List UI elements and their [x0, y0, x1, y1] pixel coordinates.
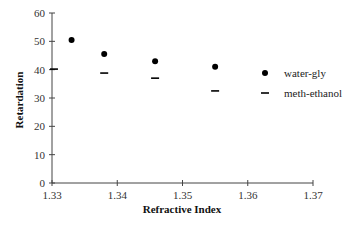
x-tick-label: 1.36 [238, 189, 258, 201]
x-axis-title: Refractive Index [143, 203, 222, 215]
y-axis-title: Retardation [13, 72, 25, 129]
legend: water-glymeth-ethanol [261, 67, 342, 99]
water-gly-point [101, 51, 107, 57]
scatter-chart: 0102030405060 1.331.341.351.361.37 water… [0, 0, 350, 225]
y-tick-label: 60 [34, 7, 46, 19]
y-tick-label: 20 [34, 120, 46, 132]
y-tick-label: 40 [34, 64, 46, 76]
y-tick-label: 50 [34, 35, 46, 47]
y-axis: 0102030405060 [34, 7, 55, 189]
legend-label: water-gly [284, 67, 326, 79]
legend-circle-marker-icon [262, 70, 268, 76]
x-axis: 1.331.341.351.361.37 [42, 180, 323, 201]
legend-label: meth-ethanol [284, 87, 342, 99]
water-gly-point [69, 37, 75, 43]
x-tick-label: 1.33 [42, 189, 62, 201]
data-points [50, 37, 219, 91]
water-gly-point [212, 64, 218, 70]
x-tick-label: 1.34 [108, 189, 128, 201]
y-tick-label: 0 [40, 177, 46, 189]
y-tick-label: 30 [34, 92, 46, 104]
x-tick-label: 1.35 [173, 189, 193, 201]
water-gly-point [152, 58, 158, 64]
y-tick-label: 10 [34, 149, 46, 161]
x-tick-label: 1.37 [303, 189, 323, 201]
